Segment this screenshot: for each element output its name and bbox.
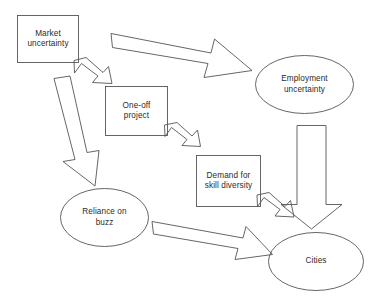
arrow-one-off-project-to-demand — [165, 123, 201, 147]
arrow-employment-to-cities — [281, 126, 342, 230]
node-shape-demand-for-skill-diversity — [197, 156, 261, 207]
diagram-shapes — [0, 0, 373, 302]
arrow-market-to-employment — [111, 34, 252, 78]
arrow-reliance-on-buzz-to-cities — [152, 222, 273, 260]
node-shape-market-uncertainty — [18, 16, 79, 63]
node-shape-reliance-on-buzz — [61, 189, 149, 247]
diagram-canvas: Market uncertainty One-off project Deman… — [0, 0, 373, 302]
arrow-market-to-one-off-project — [74, 58, 112, 84]
node-shape-cities — [269, 233, 364, 291]
node-shape-employment-uncertainty — [256, 56, 354, 114]
arrow-market-to-reliance-on-buzz — [54, 76, 99, 186]
node-shape-one-off-project — [106, 87, 168, 136]
